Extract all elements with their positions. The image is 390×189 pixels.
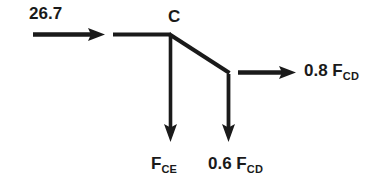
force-cd-horizontal-label-subscript: CD: [343, 70, 359, 82]
diagram-canvas: [0, 0, 390, 189]
free-body-diagram: 26.7 C 0.8 FCD FCE 0.6 FCD: [0, 0, 390, 189]
force-cd-vertical-label: 0.6 FCD: [208, 155, 263, 172]
applied-force-left-arrow: [33, 28, 105, 41]
force-ce-label-subscript: CE: [161, 163, 177, 175]
force-cd-vertical-label-subscript: CD: [247, 163, 263, 175]
joint-c-label: C: [168, 8, 180, 25]
force-cd-vertical-label-prefix: 0.6 F: [208, 154, 247, 173]
force-cd-horizontal-label: 0.8 FCD: [304, 62, 359, 79]
force-ce-label-prefix: F: [151, 154, 161, 173]
diagonal-member-right: [169, 34, 230, 73]
force-cd-horizontal-arrow: [238, 66, 296, 79]
applied-force-left-label: 26.7: [29, 5, 62, 22]
force-ce-label: FCE: [151, 155, 177, 172]
force-cd-horizontal-label-prefix: 0.8 F: [304, 61, 343, 80]
force-ce-vertical-arrow: [164, 36, 177, 142]
force-cd-vertical-arrow: [222, 74, 235, 142]
